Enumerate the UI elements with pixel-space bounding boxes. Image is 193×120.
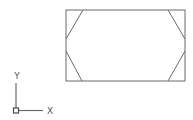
ucs-origin-square — [14, 108, 19, 113]
chamfer-bottom-right[interactable] — [168, 51, 185, 81]
drawing-canvas[interactable]: Y X — [0, 0, 193, 120]
ucs-icon: Y X — [13, 71, 53, 116]
rectangle-outline[interactable] — [66, 10, 185, 81]
ucs-y-label: Y — [13, 71, 20, 81]
chamfer-top-right[interactable] — [168, 10, 185, 39]
ucs-x-label: X — [47, 106, 53, 116]
chamfer-top-left[interactable] — [66, 10, 83, 39]
chamfer-bottom-left[interactable] — [66, 51, 82, 81]
drawing-svg: Y X — [0, 0, 193, 120]
